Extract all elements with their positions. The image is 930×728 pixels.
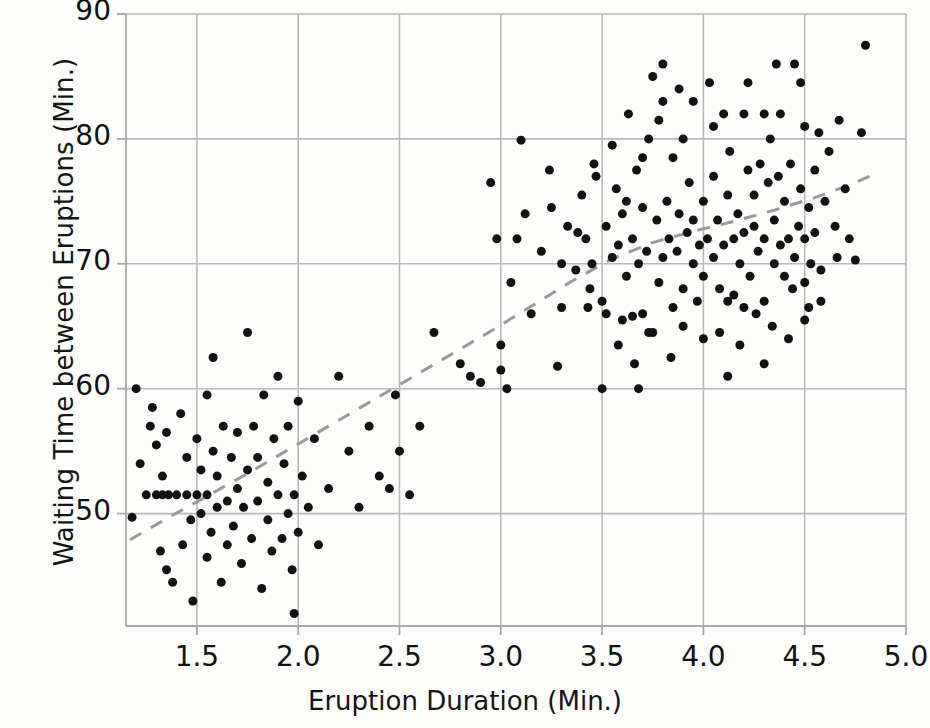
data-point	[334, 372, 343, 381]
data-point	[496, 340, 505, 349]
data-point	[233, 484, 242, 493]
data-point	[278, 534, 287, 543]
data-point	[547, 203, 556, 212]
data-point	[628, 234, 637, 243]
data-point	[365, 422, 374, 431]
axis-lines	[126, 14, 906, 626]
data-point	[709, 253, 718, 262]
data-point	[385, 484, 394, 493]
data-point	[502, 384, 511, 393]
data-point	[752, 309, 761, 318]
data-point	[669, 303, 678, 312]
data-point	[608, 253, 617, 262]
data-point	[739, 303, 748, 312]
data-point	[735, 340, 744, 349]
data-point	[764, 178, 773, 187]
data-point	[598, 297, 607, 306]
data-point	[223, 497, 232, 506]
data-point	[743, 166, 752, 175]
data-point	[527, 309, 536, 318]
x-axis-title: Eruption Duration (Min.)	[0, 686, 930, 716]
data-point	[517, 136, 526, 145]
data-point	[776, 241, 785, 250]
data-point	[192, 434, 201, 443]
data-point	[196, 509, 205, 518]
data-point	[203, 553, 212, 562]
data-point	[375, 472, 384, 481]
data-point	[816, 266, 825, 275]
data-point	[780, 197, 789, 206]
data-point	[391, 390, 400, 399]
data-point	[760, 297, 769, 306]
data-point	[513, 234, 522, 243]
data-point	[395, 447, 404, 456]
data-point	[685, 178, 694, 187]
data-point	[723, 191, 732, 200]
tick-marks	[117, 14, 906, 635]
data-point	[624, 109, 633, 118]
data-point	[203, 490, 212, 499]
data-point	[654, 116, 663, 125]
data-point	[476, 378, 485, 387]
data-point	[158, 472, 167, 481]
data-point	[784, 234, 793, 243]
data-point	[429, 328, 438, 337]
data-point	[492, 234, 501, 243]
data-point	[263, 515, 272, 524]
data-point	[693, 297, 702, 306]
data-point	[833, 253, 842, 262]
data-point	[237, 559, 246, 568]
data-point	[746, 272, 755, 281]
data-point	[209, 353, 218, 362]
data-point	[156, 547, 165, 556]
data-point	[780, 272, 789, 281]
data-point	[725, 147, 734, 156]
data-point	[247, 534, 256, 543]
data-point	[354, 503, 363, 512]
data-point	[209, 447, 218, 456]
data-point	[820, 197, 829, 206]
data-point	[213, 503, 222, 512]
data-point	[269, 434, 278, 443]
data-point	[800, 234, 809, 243]
data-point	[257, 584, 266, 593]
data-point	[280, 459, 289, 468]
data-point	[290, 490, 299, 499]
data-point	[182, 453, 191, 462]
data-point	[148, 403, 157, 412]
data-point	[227, 453, 236, 462]
gridlines	[126, 14, 906, 626]
data-point	[800, 316, 809, 325]
data-point	[689, 216, 698, 225]
data-point	[172, 490, 181, 499]
data-point	[259, 390, 268, 399]
data-point	[168, 578, 177, 587]
data-point	[679, 284, 688, 293]
data-point	[612, 184, 621, 193]
data-point	[796, 184, 805, 193]
data-point	[750, 191, 759, 200]
data-point	[699, 197, 708, 206]
data-point	[557, 259, 566, 268]
data-point	[810, 228, 819, 237]
data-point	[186, 515, 195, 524]
data-point	[814, 128, 823, 137]
data-point	[618, 209, 627, 218]
data-point	[298, 472, 307, 481]
data-point	[729, 234, 738, 243]
trendline-path	[130, 176, 869, 539]
data-point	[772, 59, 781, 68]
data-point	[456, 359, 465, 368]
data-point	[192, 490, 201, 499]
data-point	[506, 278, 515, 287]
data-point	[756, 159, 765, 168]
data-point	[229, 522, 238, 531]
data-point	[739, 109, 748, 118]
data-point	[675, 84, 684, 93]
data-point	[845, 234, 854, 243]
data-point	[571, 266, 580, 275]
data-point	[689, 259, 698, 268]
data-point	[486, 178, 495, 187]
data-point	[253, 453, 262, 462]
data-point	[735, 259, 744, 268]
